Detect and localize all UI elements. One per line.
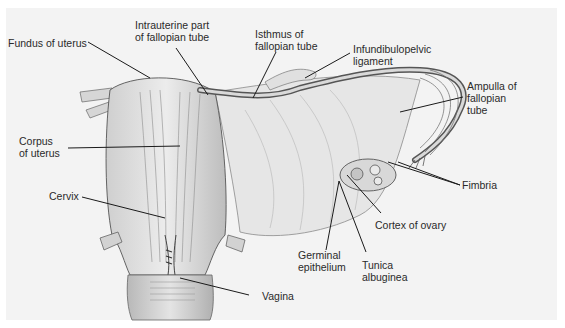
label-intrauterine-part: Intrauterine part of fallopian tube	[135, 19, 209, 43]
label-vagina: Vagina	[262, 290, 294, 302]
broad-ligament	[215, 76, 420, 236]
label-infundibulopelvic-ligament: Infundibulopelvic ligament	[353, 43, 431, 67]
ovary	[340, 159, 396, 191]
label-isthmus: Isthmus of fallopian tube	[255, 28, 317, 52]
label-cortex-of-ovary: Cortex of ovary	[375, 219, 446, 231]
label-fimbria: Fimbria	[462, 179, 497, 191]
label-germinal-epithelium: Germinal epithelium	[298, 249, 346, 273]
label-corpus-of-uterus: Corpus of uterus	[19, 135, 60, 159]
label-ampulla: Ampulla of fallopian tube	[467, 80, 517, 116]
left-ligament-stub	[80, 88, 112, 102]
label-fundus-of-uterus: Fundus of uterus	[8, 37, 87, 49]
label-cervix: Cervix	[49, 190, 79, 202]
label-tunica-albuginea: Tunica albuginea	[362, 259, 408, 283]
